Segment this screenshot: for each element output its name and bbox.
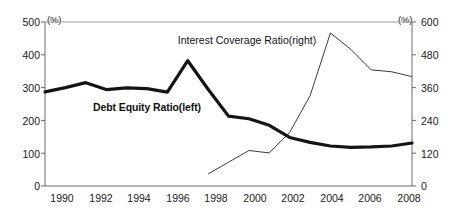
series-line-debt-equity-ratio [45,61,412,148]
series-line-interest-coverage-ratio [208,33,412,174]
left-axis-ticks [41,22,45,186]
chart-container: (%) (%) 500 400 300 200 100 0 600 480 36… [0,0,461,222]
right-axis-ticks [412,22,416,186]
axis-lines [45,22,412,186]
plot-area [0,0,461,222]
